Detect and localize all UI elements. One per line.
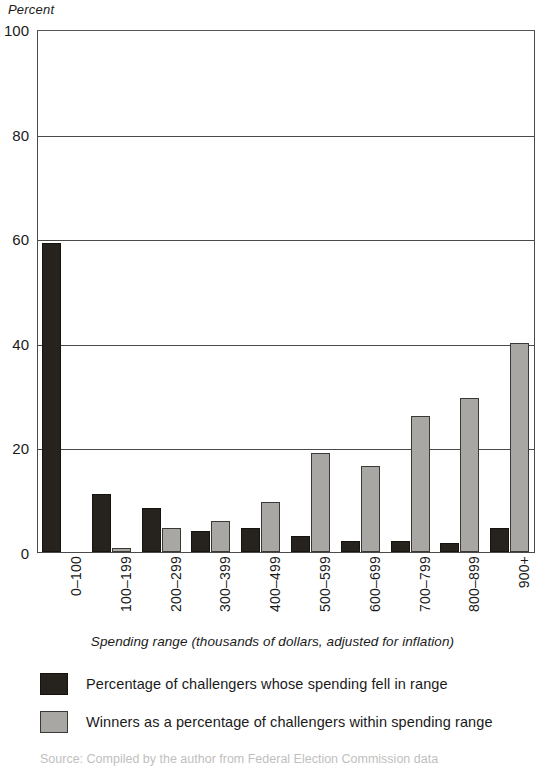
bar[interactable] [261, 502, 280, 552]
bar[interactable] [191, 531, 210, 552]
bar[interactable] [112, 548, 131, 552]
x-tick-label: 300–399 [217, 556, 233, 612]
bar[interactable] [42, 243, 61, 552]
legend-swatch-dark-icon [40, 673, 68, 695]
bar[interactable] [391, 541, 410, 553]
x-axis-tick-labels: 0–100100–199200–299300–399400–499500–599… [37, 556, 535, 628]
bar[interactable] [440, 543, 459, 552]
x-tick-label: 700–799 [417, 556, 433, 612]
y-tick-label: 40 [12, 335, 29, 352]
bar[interactable] [411, 416, 430, 552]
bar[interactable] [162, 528, 181, 552]
x-tick-label: 0–100 [68, 556, 84, 596]
bar-group [88, 31, 138, 552]
bar-group [138, 31, 188, 552]
bar-group [387, 31, 437, 552]
bar[interactable] [341, 541, 360, 553]
bar-group [287, 31, 337, 552]
legend-item-label: Winners as a percentage of challengers w… [86, 714, 493, 730]
bar[interactable] [241, 528, 260, 552]
bar[interactable] [361, 466, 380, 552]
bar[interactable] [291, 536, 310, 552]
bar-group [187, 31, 237, 552]
bar[interactable] [460, 398, 479, 552]
source-note: Source: Compiled by the author from Fede… [40, 752, 438, 766]
legend-item[interactable]: Percentage of challengers whose spending… [40, 665, 530, 703]
bar-group [337, 31, 387, 552]
y-tick-label: 100 [4, 22, 29, 39]
x-tick-label: 400–499 [267, 556, 283, 612]
bar[interactable] [211, 521, 230, 552]
chart-plot-area [37, 30, 535, 553]
x-tick-label: 900+ [516, 556, 532, 588]
x-axis-title: Spending range (thousands of dollars, ad… [0, 634, 545, 649]
x-tick-label: 600–699 [367, 556, 383, 612]
bar[interactable] [490, 528, 509, 552]
y-axis-tick-labels: 020406080100 [0, 30, 33, 553]
bar[interactable] [311, 453, 330, 552]
bars-layer [38, 31, 534, 552]
bar-group [38, 31, 88, 552]
y-axis-title: Percent [8, 2, 54, 17]
x-tick-label: 100–199 [118, 556, 134, 612]
bar-group [436, 31, 486, 552]
legend-swatch-gray-icon [40, 711, 68, 733]
x-tick-label: 800–899 [466, 556, 482, 612]
y-tick-label: 80 [12, 126, 29, 143]
y-tick-label: 20 [12, 440, 29, 457]
legend-item-label: Percentage of challengers whose spending… [86, 676, 448, 692]
bar[interactable] [510, 343, 529, 552]
bar-group [486, 31, 536, 552]
bar-group [237, 31, 287, 552]
x-tick-label: 500–599 [317, 556, 333, 612]
y-tick-label: 0 [21, 545, 29, 562]
legend-item[interactable]: Winners as a percentage of challengers w… [40, 703, 530, 741]
y-tick-label: 60 [12, 231, 29, 248]
x-tick-label: 200–299 [168, 556, 184, 612]
chart-legend: Percentage of challengers whose spending… [40, 665, 530, 741]
bar[interactable] [142, 508, 161, 552]
bar[interactable] [92, 494, 111, 552]
